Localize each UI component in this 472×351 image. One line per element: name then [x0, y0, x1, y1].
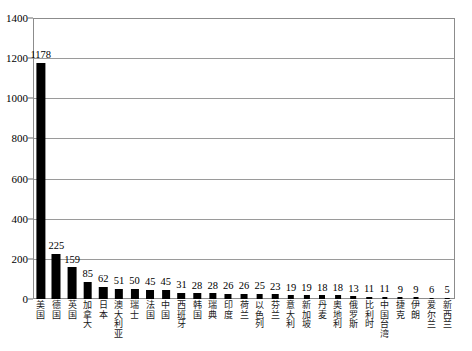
bar[interactable]	[99, 287, 107, 299]
y-axis-tick-label: 1000	[6, 93, 28, 104]
bar-value-label: 45	[145, 277, 156, 288]
bar-value-label: 51	[114, 276, 125, 287]
bar-slot: 5	[439, 18, 455, 299]
bar[interactable]	[36, 63, 45, 299]
bar-slot: 9	[392, 18, 408, 299]
bar[interactable]	[193, 293, 200, 299]
bar[interactable]	[351, 296, 357, 299]
bar-value-label: 11	[380, 284, 390, 295]
bar-slot: 19	[283, 18, 299, 299]
y-axis-tick-label: 800	[12, 133, 29, 144]
bar-value-label: 28	[192, 281, 203, 292]
x-axis-tick-label: 捷克	[395, 301, 406, 320]
bar-value-label: 5	[445, 285, 450, 296]
y-axis-tick-label: 1400	[6, 13, 28, 24]
x-axis-tick-label: 以色列	[254, 301, 265, 330]
bar-value-label: 26	[239, 281, 250, 292]
bar[interactable]	[445, 298, 450, 300]
x-axis-tick-label: 比利时	[364, 301, 375, 330]
x-axis-tick-label: 俄罗斯	[348, 301, 359, 330]
bar[interactable]	[115, 289, 123, 299]
bar[interactable]	[319, 295, 325, 299]
x-axis-tick-label: 丹麦	[317, 301, 328, 320]
bar[interactable]	[146, 290, 154, 299]
bar[interactable]	[272, 294, 279, 299]
x-axis-tick-label: 日本	[98, 301, 109, 320]
bar-value-label: 18	[317, 283, 328, 294]
bar-slot: 11	[361, 18, 377, 299]
x-axis-tick-label: 西班牙	[176, 301, 187, 330]
bar-slot: 51	[111, 18, 127, 299]
bar-slot: 159	[64, 18, 80, 299]
x-axis-tick-label: 澳大利亚	[113, 301, 124, 339]
bar[interactable]	[303, 295, 309, 299]
x-axis-tick-label: 印度	[223, 301, 234, 320]
x-axis-tick-label: 新加坡	[301, 301, 312, 330]
bar-slot: 31	[174, 18, 190, 299]
bar[interactable]	[366, 297, 371, 299]
bar[interactable]	[382, 297, 387, 299]
bar[interactable]	[241, 294, 248, 299]
bar-slot: 19	[299, 18, 315, 299]
bar[interactable]	[162, 290, 170, 299]
x-axis-tick-label: 韩国	[192, 301, 203, 320]
bar-value-label: 19	[286, 283, 297, 294]
y-axis-tick-label: 200	[12, 253, 29, 264]
y-axis-tick-label: 600	[12, 173, 29, 184]
bar-slot: 26	[236, 18, 252, 299]
x-axis-tick-label: 意大利	[285, 301, 296, 330]
bar[interactable]	[178, 293, 186, 299]
bar-slot: 18	[330, 18, 346, 299]
bar-value-label: 23	[270, 282, 281, 293]
bar[interactable]	[131, 289, 139, 299]
bar-value-label: 9	[413, 285, 418, 296]
bar-slot: 1178	[33, 18, 49, 299]
bar-slot: 50	[127, 18, 143, 299]
bar-value-label: 9	[398, 285, 403, 296]
bar[interactable]	[209, 293, 216, 299]
bar-value-label: 11	[364, 284, 374, 295]
bar-slot: 23	[267, 18, 283, 299]
bar-value-label: 18	[333, 283, 344, 294]
bar-value-label: 19	[301, 283, 312, 294]
bar-value-label: 13	[348, 284, 359, 295]
x-axis-labels: 美国德国英国加拿大日本澳大利亚瑞士法国中国西班牙韩国瑞典印度荷兰以色列芬兰意大利…	[33, 301, 455, 351]
x-axis-tick-label: 爱尔兰	[426, 301, 437, 330]
x-axis-tick-label: 瑞典	[207, 301, 218, 320]
x-axis-tick-label: 美国	[35, 301, 46, 320]
bar-value-label: 28	[207, 281, 218, 292]
bar[interactable]	[256, 294, 263, 299]
bar-slot: 25	[252, 18, 268, 299]
bar-slot: 11	[377, 18, 393, 299]
bar-slot: 9	[408, 18, 424, 299]
x-axis-tick-label: 芬兰	[270, 301, 281, 320]
bar-value-label: 25	[254, 281, 265, 292]
bar-slot: 45	[142, 18, 158, 299]
bar-value-label: 50	[129, 276, 140, 287]
bar-value-label: 6	[429, 285, 434, 296]
bar[interactable]	[83, 282, 92, 299]
bar[interactable]	[68, 267, 77, 299]
bar[interactable]	[413, 297, 418, 299]
bar[interactable]	[398, 297, 403, 299]
bar[interactable]	[288, 295, 294, 299]
x-axis-tick-label: 加拿大	[82, 301, 93, 330]
bar-slot: 45	[158, 18, 174, 299]
bar[interactable]	[335, 295, 341, 299]
bar-slot: 225	[49, 18, 65, 299]
bar-value-label: 85	[82, 269, 93, 280]
bar[interactable]	[52, 254, 61, 299]
bar[interactable]	[429, 298, 434, 300]
bar-value-label: 225	[49, 241, 65, 252]
bar-slot: 85	[80, 18, 96, 299]
bar-value-label: 26	[223, 281, 234, 292]
bar-value-label: 159	[64, 255, 80, 266]
bar-slot: 62	[96, 18, 112, 299]
y-axis-tick-label: 1200	[6, 53, 28, 64]
bar-value-label: 62	[98, 274, 109, 285]
x-axis-tick-label: 法国	[145, 301, 156, 320]
bar-value-label: 31	[176, 280, 187, 291]
bar-chart: 0200400600800100012001400 11782251598562…	[0, 0, 472, 351]
bar[interactable]	[225, 294, 232, 299]
bar-slot: 13	[346, 18, 362, 299]
